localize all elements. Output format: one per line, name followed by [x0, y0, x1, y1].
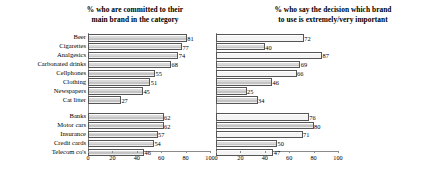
x-tick-label: 20	[237, 154, 243, 161]
bar-row: Cigarettes 77	[88, 43, 210, 51]
bar-value: 46	[145, 149, 151, 157]
bar: 71	[216, 131, 303, 139]
bar-row: Beer 81	[88, 34, 210, 42]
bar-row: Cat litter 27	[88, 96, 210, 104]
bar: 87	[216, 52, 322, 60]
bar-value: 76	[309, 114, 315, 122]
tick-mark	[161, 151, 162, 153]
bar-value: 68	[172, 61, 178, 69]
bar-value: 54	[154, 140, 160, 148]
bar-value: 71	[303, 131, 309, 139]
x-tick-label: 20	[109, 154, 115, 161]
tick-mark	[240, 151, 241, 153]
bar-row: 72	[216, 34, 338, 42]
bar-value: 77	[182, 44, 188, 52]
bar-row: 47	[216, 149, 338, 157]
tick-mark	[210, 151, 211, 153]
bar-label: Banks	[70, 112, 86, 120]
bar-label: Cat litter	[63, 96, 86, 104]
bar-row: Telecom co's 46	[88, 149, 210, 157]
bar: 57	[88, 131, 158, 139]
x-tick-label: 0	[214, 154, 217, 161]
bar-row: Cellphones 55	[88, 70, 210, 78]
bar-row: 71	[216, 131, 338, 139]
bar: 68	[88, 61, 171, 69]
bar: 77	[88, 43, 182, 51]
tick-mark	[137, 151, 138, 153]
bar-label: Credit cards	[54, 139, 86, 147]
bar-value: 72	[304, 35, 310, 43]
bar-value: 66	[297, 70, 303, 78]
bar: 69	[216, 61, 300, 69]
tick-mark	[216, 151, 217, 153]
bar: 46	[216, 78, 272, 86]
bar-label: Clothing	[63, 78, 86, 86]
bar: 50	[216, 140, 277, 148]
bar-value: 27	[121, 97, 127, 105]
tick-mark	[88, 151, 89, 153]
bar-row: 25	[216, 87, 338, 95]
tick-mark	[265, 151, 266, 153]
bar-row: Banks 62	[88, 113, 210, 121]
bar: 55	[88, 70, 155, 78]
bar: 80	[216, 122, 314, 130]
chart-sheet: % who are committed to their main brand …	[0, 0, 425, 173]
bar: 51	[88, 78, 150, 86]
plot-area-left: Beer 81 Cigarettes 77 Analgesics 74	[0, 0, 212, 173]
bar: 74	[88, 52, 178, 60]
bar-label: Insurance	[60, 130, 86, 138]
bar-row: Analgesics 74	[88, 52, 210, 60]
plot-area-right: 72 40 87 69	[213, 0, 425, 173]
bar-value: 62	[164, 123, 170, 131]
x-tick-label: 80	[183, 154, 189, 161]
bar-row: 46	[216, 78, 338, 86]
bar-row: 69	[216, 61, 338, 69]
bar: 25	[216, 87, 247, 95]
bar-value: 25	[247, 88, 253, 96]
bar-group-services-right: 76 80 71 50	[216, 113, 338, 157]
bar-label: Cigarettes	[59, 42, 86, 50]
bar-value: 40	[265, 44, 271, 52]
bar: 54	[88, 140, 154, 148]
bar-value: 62	[164, 114, 170, 122]
bar-label: Newspapers	[54, 87, 86, 95]
bar-value: 45	[143, 88, 149, 96]
bar-value: 80	[314, 123, 320, 131]
bar: 27	[88, 96, 121, 104]
bar-value: 34	[258, 97, 264, 105]
bar-row: 34	[216, 96, 338, 104]
bar-row: Insurance 57	[88, 131, 210, 139]
bar: 66	[216, 70, 297, 78]
x-tick-label: 0	[86, 154, 89, 161]
bar-group-services-left: Banks 62 Motor cars 62 Insurance 57	[88, 113, 210, 157]
bar-value: 57	[158, 131, 164, 139]
bar-value: 55	[156, 70, 162, 78]
chart-panel-left: % who are committed to their main brand …	[0, 0, 212, 173]
x-tick-label: 80	[311, 154, 317, 161]
bar-row: 40	[216, 43, 338, 51]
bar-group-consumer-right: 72 40 87 69	[216, 34, 338, 105]
bar-row: 66	[216, 70, 338, 78]
x-tick-label: 40	[262, 154, 268, 161]
bar-value: 51	[151, 79, 157, 87]
bar-label: Telecom co's	[52, 148, 86, 156]
bar-row: Credit cards 54	[88, 140, 210, 148]
bar-value: 46	[273, 79, 279, 87]
bar-row: 80	[216, 122, 338, 130]
bar: 40	[216, 43, 265, 51]
bar-row: 50	[216, 140, 338, 148]
x-tick-label: 40	[134, 154, 140, 161]
bar-label: Cellphones	[56, 69, 86, 77]
bar-label: Carbonated drinks	[37, 60, 86, 68]
bar-label: Analgesics	[57, 51, 86, 59]
bar-value: 47	[274, 149, 280, 157]
bar: 62	[88, 122, 164, 130]
bar-row: 76	[216, 113, 338, 121]
tick-mark	[289, 151, 290, 153]
bar-row: Motor cars 62	[88, 122, 210, 130]
bar: 81	[88, 34, 187, 42]
x-tick-label: 60	[286, 154, 292, 161]
bar-label: Motor cars	[57, 121, 86, 129]
bar-value: 50	[278, 140, 284, 148]
bar-row: Carbonated drinks 68	[88, 61, 210, 69]
